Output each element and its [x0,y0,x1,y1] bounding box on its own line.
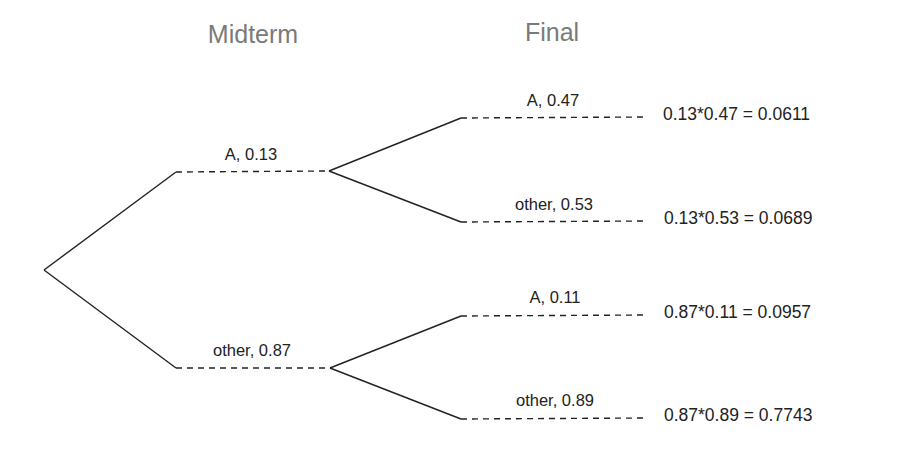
dashed-midterm-a [176,171,329,172]
result-a-a: 0.13*0.47 = 0.0611 [663,106,810,124]
label-midterm-a: A, 0.13 [225,146,277,163]
label-final-a-a: A, 0.47 [527,92,579,109]
branch-root-to-midterm-a [44,172,176,270]
header-final: Final [525,20,579,45]
result-other-a: 0.87*0.11 = 0.0957 [664,304,811,322]
dashed-final-other-other [461,418,646,419]
label-midterm-other: other, 0.87 [213,342,291,359]
dashed-final-a-a [461,117,646,118]
branch-root-to-midterm-other [44,270,176,368]
result-other-other: 0.87*0.89 = 0.7743 [664,407,812,425]
branch-other-to-final-a [330,316,461,368]
branch-a-to-final-other [329,171,461,222]
branch-other-to-final-other [330,368,461,419]
label-final-other-a: A, 0.11 [529,289,580,306]
dashed-final-other-a [461,315,646,316]
dashed-final-a-other [461,221,646,222]
label-final-a-other: other, 0.53 [515,196,593,213]
header-midterm: Midterm [208,22,298,47]
label-final-other-other: other, 0.89 [516,392,594,409]
branch-a-to-final-a [329,118,461,171]
probability-tree-diagram: Midterm Final A, 0.13 other, 0.87 A, 0.4… [0,0,912,454]
result-a-other: 0.13*0.53 = 0.0689 [664,210,812,228]
